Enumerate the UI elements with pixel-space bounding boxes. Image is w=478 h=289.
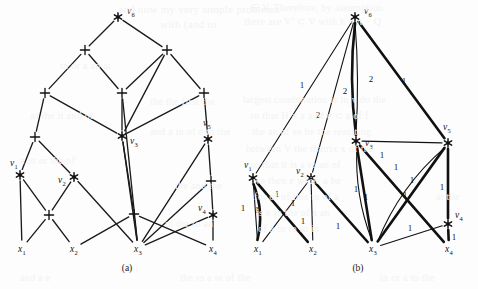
node-label-v4: v4 bbox=[455, 210, 464, 222]
graph-edge bbox=[27, 220, 45, 242]
edge-weight-label: 2 bbox=[369, 74, 374, 84]
graph-figure-svg: 12221111111111111111 v6v3v5v1v2v4x1x2x3x… bbox=[0, 0, 478, 289]
graph-node-x4: x4 bbox=[208, 244, 218, 256]
graph-edge bbox=[53, 220, 70, 242]
weighted-graph-edge bbox=[362, 141, 442, 143]
bleedthrough-line: the and the bbox=[175, 180, 222, 191]
node-label-x4: x4 bbox=[444, 244, 454, 256]
graph-node-pA bbox=[80, 45, 89, 54]
graph-edge bbox=[126, 54, 162, 89]
node-label-v3: v3 bbox=[130, 136, 138, 148]
node-label-x1: x1 bbox=[253, 244, 262, 256]
edge-weight-label: 1 bbox=[241, 203, 246, 213]
bleedthrough-line: the the first the bbox=[150, 96, 215, 107]
edge-weight-label: 1 bbox=[408, 223, 413, 233]
node-label-x2: x2 bbox=[69, 244, 78, 256]
graph-node-pH bbox=[44, 210, 53, 219]
graph-edge bbox=[171, 55, 200, 89]
bleedthrough-line: so that H ≠ a a of e ⊂ a of f bbox=[250, 110, 369, 121]
bleedthrough-line: and a e bbox=[20, 272, 50, 283]
bleedthrough-line: and a in of e to the bbox=[150, 126, 230, 137]
bleedthrough-line: between V the matrix x of the bbox=[246, 143, 374, 154]
graph-edge bbox=[78, 181, 133, 242]
graph-edge bbox=[144, 185, 207, 243]
bleedthrough-line: there are V’ ⊂ V with h = π − Q bbox=[244, 16, 381, 27]
bleedthrough-line: the to a in of the bbox=[180, 272, 251, 283]
graph-edge bbox=[20, 181, 22, 240]
bleedthrough-line: so that it is a to an of bbox=[250, 159, 341, 170]
figure-container: and now my very simple problemswith (and… bbox=[0, 0, 478, 289]
graph-node-v4: v4 bbox=[198, 203, 217, 219]
graph-node-pF bbox=[30, 132, 39, 141]
graph-node-x4: x4 bbox=[444, 244, 454, 256]
bleedthrough-line: at the bbox=[436, 191, 460, 202]
graph-node-pC bbox=[40, 88, 49, 97]
node-label-x3: x3 bbox=[368, 244, 377, 256]
graph-node-v2: v2 bbox=[58, 173, 78, 187]
edge-weight-label: 1 bbox=[364, 192, 369, 202]
bleedthrough-line: of a to to to in bbox=[258, 223, 319, 234]
graph-edge bbox=[208, 145, 210, 175]
graph-edge bbox=[123, 20, 162, 46]
graph-node-x1: x1 bbox=[17, 244, 26, 256]
edge-weight-label: 1 bbox=[336, 221, 341, 231]
bleedthrough-line: in or a to the bbox=[380, 272, 435, 283]
graph-node-pD bbox=[117, 88, 126, 97]
graph-node-x3: x3 bbox=[368, 244, 377, 256]
node-label-v4: v4 bbox=[198, 203, 207, 215]
node-label-v2: v2 bbox=[58, 175, 66, 187]
bleedthrough-line: in the to an bbox=[165, 218, 213, 229]
graph-node-x2: x2 bbox=[69, 244, 78, 256]
graph-edge bbox=[24, 180, 46, 210]
node-label-v5: v5 bbox=[443, 122, 451, 134]
bleedthrough-line: as the it and of bbox=[30, 110, 94, 121]
bleedthrough-line: with (and to bbox=[160, 18, 217, 30]
edge-weight-label: 1 bbox=[452, 232, 457, 242]
edge-weight-label: 1 bbox=[300, 80, 305, 90]
node-label-v1: v1 bbox=[10, 158, 18, 170]
graph-node-x2: x2 bbox=[308, 244, 317, 256]
graph-node-pI bbox=[129, 209, 138, 218]
bleedthrough-line: the an of ee be the resulting bbox=[252, 126, 371, 137]
graph-node-x1: x1 bbox=[253, 244, 262, 256]
bleedthrough-line: for of of this to of a bbox=[254, 191, 339, 202]
node-label-x2: x2 bbox=[308, 244, 317, 256]
node-label-x4: x4 bbox=[208, 244, 218, 256]
edge-weight-label: 1 bbox=[403, 190, 408, 200]
graph-node-pB bbox=[162, 45, 171, 54]
bleedthrough-line: we then e while a be bbox=[253, 175, 341, 186]
graph-node-v3: v3 bbox=[118, 132, 138, 148]
bleedthrough-line: largest combination is in v do the bbox=[243, 94, 386, 105]
panel-b-caption: (b) bbox=[352, 263, 363, 274]
edge-weight-label: 1 bbox=[354, 184, 359, 194]
edge-weight-label: 1 bbox=[380, 150, 385, 160]
node-label-x3: x3 bbox=[133, 244, 142, 256]
graph-edge bbox=[125, 55, 164, 130]
graph-node-x3: x3 bbox=[133, 244, 142, 256]
edge-weight-label: 1 bbox=[402, 76, 407, 86]
panel-a-caption: (a) bbox=[122, 263, 133, 274]
bleedthrough-line: a in or the of bbox=[20, 155, 75, 166]
node-label-x1: x1 bbox=[17, 244, 26, 256]
graph-edge bbox=[89, 21, 114, 46]
graph-edge bbox=[52, 182, 70, 210]
edge-weight-label: 1 bbox=[394, 162, 399, 172]
bleedthrough-line: in or a an at bbox=[60, 60, 111, 71]
graph-node-v5: v5 bbox=[443, 122, 452, 147]
bleedthrough-line: ∈ V. Therefore, by assumption bbox=[250, 2, 383, 13]
edge-weight-label: 1 bbox=[410, 175, 415, 185]
bleedthrough-line: is e in the of a an bbox=[256, 207, 330, 218]
